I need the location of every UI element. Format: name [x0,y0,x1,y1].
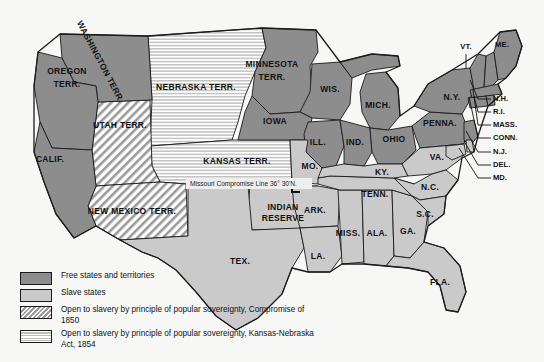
legend-swatch-hatch [20,306,52,319]
region-label-new-jersey: N.J. [493,147,507,156]
region-label-north-carolina: N.C. [421,182,439,192]
legend-row-hatch: Open to slavery by principle of popular … [20,305,320,326]
legend-swatch-free [20,272,52,285]
region-label-louisiana: LA. [311,251,326,261]
region-label-virginia: VA. [430,152,444,162]
region-label-alabama: ALA. [366,228,387,238]
region-label-utah-terr: UTAH TERR. [93,120,147,130]
region-label-mississippi: MISS. [336,228,361,238]
region-maine [494,30,522,80]
region-label-delaware: DEL. [493,160,510,169]
region-label-minnesota-terr-2: TERR. [259,72,286,82]
region-label-maryland: MD. [493,173,507,182]
region-label-tennessee: TENN. [362,189,389,199]
region-label-wisconsin: WIS. [320,84,340,94]
region-label-indian-reserve-2: RESERVE [262,213,305,223]
region-label-indiana: IND. [346,137,364,147]
region-label-connecticut: CONN. [493,133,517,142]
region-label-missouri: MO. [302,161,319,171]
region-label-rhode-island: R.I. [493,107,505,116]
region-label-south-carolina: S.C. [416,209,434,219]
region-label-kentucky: KY. [375,167,389,177]
legend-label-slave: Slave states [61,288,106,299]
legend-row-stripe: Open to slavery by principle of popular … [20,329,320,350]
region-label-nebraska-terr: NEBRASKA TERR. [156,82,236,92]
region-label-ohio: OHIO [383,134,406,144]
legend-label-hatch: Open to slavery by principle of popular … [61,305,320,326]
region-label-illinois: ILL. [310,137,326,147]
region-kentucky [318,164,408,178]
region-label-california: CALIF. [36,154,64,164]
missouri-compromise-label: Missouri Compromise Line 36° 30'N. [190,180,297,188]
region-mississippi [338,190,364,264]
legend-swatch-slave [20,289,52,302]
legend-label-free: Free states and territories [61,271,154,282]
region-label-new-mexico-terr: NEW MEXICO TERR. [88,206,176,216]
region-label-indian-reserve: INDIAN [267,202,298,212]
region-label-michigan: MICH. [365,100,391,110]
region-label-new-hampshire: N.H. [493,94,508,103]
legend-row-free: Free states and territories [20,271,320,285]
region-label-arkansas: ARK. [304,205,326,215]
region-label-iowa: IOWA [263,116,287,126]
region-label-maine: ME. [495,40,509,49]
region-label-massachusetts: MASS. [493,120,517,129]
region-label-minnesota-terr: MINNESOTA [245,59,298,69]
region-label-oregon-terr: OREGON [47,66,87,76]
historical-map: Missouri Compromise Line 36° 30'N. WASHI… [0,0,544,362]
map-legend: Free states and territoriesSlave statesO… [20,271,320,353]
region-label-vermont: VT. [460,42,472,51]
region-label-kansas-terr: KANSAS TERR. [203,156,270,166]
region-label-georgia: GA. [400,226,416,236]
region-label-florida: FLA. [430,277,450,287]
region-label-texas: TEX. [230,256,250,266]
region-label-new-york: N.Y. [444,92,461,102]
region-utah-terr [92,100,160,186]
legend-row-slave: Slave states [20,288,320,302]
legend-swatch-stripe [20,330,52,343]
region-label-oregon-terr-2: TERR. [54,79,81,89]
region-label-pennsylvania: PENNA. [423,118,457,128]
legend-label-stripe: Open to slavery by principle of popular … [61,329,320,350]
